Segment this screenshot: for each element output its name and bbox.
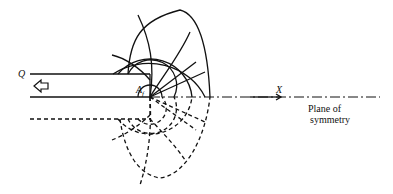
arrow-left-icon — [34, 80, 48, 92]
af-label: Af — [136, 84, 144, 98]
q-label: Q — [18, 68, 25, 79]
plane-label-line1: Plane of — [308, 103, 341, 114]
x-axis-label: X — [276, 84, 282, 95]
plane-label-line2: symmetry — [310, 114, 350, 125]
flow-field-diagram — [0, 0, 393, 194]
af-sub: f — [142, 90, 144, 98]
